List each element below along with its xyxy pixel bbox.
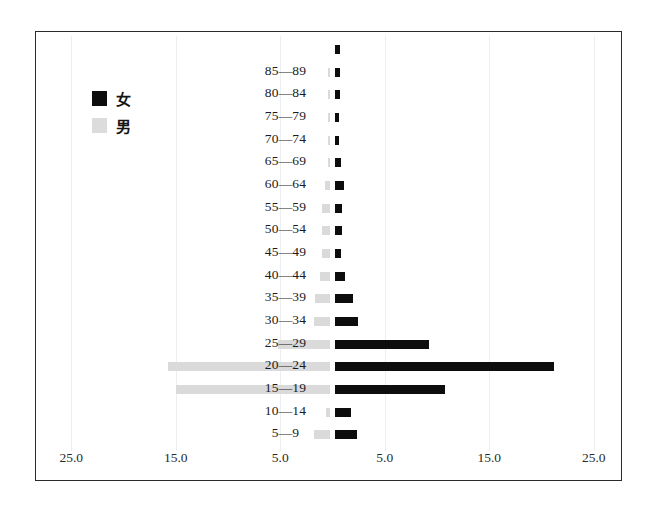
age-group-label: 65—69 <box>241 153 331 169</box>
bar-female <box>335 45 340 54</box>
legend-label-male: 男 <box>116 115 131 136</box>
x-tick-label: 5.0 <box>355 450 415 466</box>
age-group-label: 70—74 <box>241 131 331 147</box>
age-group-label: 55—59 <box>241 199 331 215</box>
age-group-label: 10—14 <box>241 403 331 419</box>
bar-female <box>335 90 340 99</box>
bar-row: 20—24 <box>36 355 623 378</box>
bar-row: 15—19 <box>36 378 623 401</box>
bar-female <box>335 68 340 77</box>
bar-row: 60—64 <box>36 174 623 197</box>
age-group-label: 30—34 <box>241 312 331 328</box>
bar-female <box>335 226 342 235</box>
bar-female <box>335 408 351 417</box>
bar-row: 85—89 <box>36 61 623 84</box>
bar-row: 25—29 <box>36 333 623 356</box>
chart-legend: 女 男 <box>92 85 222 139</box>
legend-swatch-male-icon <box>92 118 107 133</box>
bar-female <box>335 158 341 167</box>
age-group-label: 80—84 <box>241 85 331 101</box>
bar-row: 45—49 <box>36 242 623 265</box>
age-group-label: 5—9 <box>241 425 331 441</box>
age-group-label: 85—89 <box>241 63 331 79</box>
bar-female <box>335 385 445 394</box>
bar-row: 5—9 <box>36 423 623 446</box>
bar-row: 10—14 <box>36 401 623 424</box>
bar-row: 50—54 <box>36 219 623 242</box>
x-tick-label: 5.0 <box>250 450 310 466</box>
bar-row: 30—34 <box>36 310 623 333</box>
x-tick-label: 25.0 <box>41 450 101 466</box>
bar-row <box>36 38 623 61</box>
bar-female <box>335 362 554 371</box>
bar-row: 35—39 <box>36 287 623 310</box>
bar-female <box>335 204 342 213</box>
age-group-label: 15—19 <box>241 380 331 396</box>
bar-female <box>335 136 339 145</box>
legend-item-female: 女 <box>92 85 222 112</box>
bar-female <box>335 317 358 326</box>
legend-item-male: 男 <box>92 112 222 139</box>
chart-frame: 85—8980—8475—7970—7465—6960—6455—5950—54… <box>35 31 622 481</box>
bar-row: 65—69 <box>36 151 623 174</box>
bar-female <box>335 294 353 303</box>
age-group-label: 20—24 <box>241 357 331 373</box>
x-axis: 25.015.05.05.015.025.0 <box>36 450 623 480</box>
age-group-label: 25—29 <box>241 335 331 351</box>
legend-swatch-female-icon <box>92 91 107 106</box>
age-group-label: 50—54 <box>241 221 331 237</box>
age-group-label: 60—64 <box>241 176 331 192</box>
bar-female <box>335 272 345 281</box>
age-group-label: 35—39 <box>241 289 331 305</box>
bar-row: 55—59 <box>36 197 623 220</box>
bar-female <box>335 249 341 258</box>
age-group-label: 40—44 <box>241 267 331 283</box>
x-tick-label: 25.0 <box>564 450 624 466</box>
age-group-label: 45—49 <box>241 244 331 260</box>
bar-female <box>335 113 339 122</box>
legend-label-female: 女 <box>116 88 131 109</box>
bar-row: 40—44 <box>36 265 623 288</box>
bar-female <box>335 181 344 190</box>
bar-female <box>335 340 429 349</box>
bar-female <box>335 430 357 439</box>
age-group-label: 75—79 <box>241 108 331 124</box>
x-tick-label: 15.0 <box>146 450 206 466</box>
x-tick-label: 15.0 <box>459 450 519 466</box>
